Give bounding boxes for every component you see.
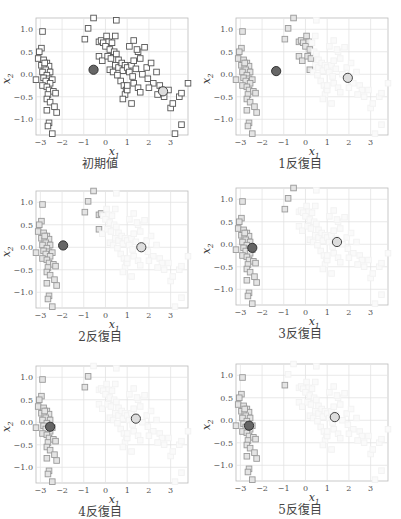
data-point: [140, 71, 146, 77]
panel-iter-2: −3−2−101231.00.50.0−0.5−1.0x1x2 2反復目: [0, 177, 200, 349]
data-point: [36, 222, 42, 228]
data-point: [134, 220, 140, 226]
y-tick-label: 1.0: [20, 373, 33, 382]
data-point: [109, 213, 115, 219]
x-tick-label: 0: [103, 138, 108, 147]
data-point: [354, 239, 360, 245]
data-point: [42, 408, 48, 414]
x-tick-label: −2: [56, 138, 68, 147]
data-point: [114, 51, 120, 57]
data-point: [314, 363, 320, 369]
data-point: [334, 217, 340, 223]
data-point: [361, 94, 367, 100]
data-point: [154, 242, 160, 248]
y-axis-label: x2: [0, 421, 15, 432]
data-point: [44, 107, 50, 113]
data-point: [131, 58, 137, 64]
x-tick-label: 0: [303, 484, 308, 493]
data-point: [154, 417, 160, 423]
data-point: [109, 388, 115, 394]
data-point: [115, 245, 121, 251]
data-point: [253, 90, 259, 96]
plot-frame: [36, 366, 188, 483]
data-point: [52, 104, 58, 110]
y-tick-label: −0.5: [14, 441, 33, 450]
data-point: [253, 260, 259, 266]
data-point: [179, 122, 185, 128]
data-point: [233, 423, 239, 429]
data-point: [320, 442, 326, 448]
x-tick-label: 1: [325, 138, 330, 147]
data-point: [85, 374, 91, 380]
data-point: [170, 449, 176, 455]
data-point: [131, 386, 137, 392]
x-tick-label: 3: [368, 138, 373, 147]
data-point: [99, 58, 105, 64]
centroid-light: [332, 237, 341, 246]
data-point: [385, 426, 391, 432]
y-tick-label: −0.5: [14, 93, 33, 102]
x-tick-label: 3: [368, 484, 373, 493]
data-point: [145, 76, 151, 82]
x-tick-label: −2: [256, 484, 268, 493]
data-point: [137, 89, 143, 95]
data-point: [127, 217, 133, 223]
data-point: [370, 101, 376, 107]
data-point: [129, 449, 135, 455]
y-tick-label: 0.5: [20, 48, 33, 57]
caption: 1反復目: [200, 154, 400, 171]
data-point: [82, 384, 88, 390]
y-tick-label: −1.0: [214, 115, 233, 124]
data-point: [146, 258, 152, 264]
data-point: [131, 231, 137, 237]
data-point: [127, 392, 133, 398]
x-tick-label: −3: [234, 138, 246, 147]
data-point: [252, 104, 258, 110]
data-point: [337, 56, 343, 62]
data-point: [348, 60, 354, 66]
data-point: [91, 363, 97, 369]
data-point: [124, 83, 130, 89]
data-point: [254, 280, 260, 286]
data-point: [324, 429, 330, 435]
y-tick-label: 1.0: [220, 195, 233, 204]
y-tick-label: 0.5: [220, 218, 233, 227]
x-tick-label: 3: [168, 311, 173, 320]
data-point: [114, 224, 120, 230]
data-point: [145, 424, 151, 430]
centroid-light: [131, 414, 140, 423]
data-point: [124, 256, 130, 262]
y-tick-label: 1.0: [220, 25, 233, 34]
data-point: [337, 435, 343, 441]
x-tick-label: 0: [303, 308, 308, 317]
data-point: [85, 26, 91, 32]
data-point: [285, 196, 291, 202]
data-point: [185, 428, 191, 434]
data-point: [242, 60, 248, 66]
data-point: [49, 479, 55, 485]
scatter-plot: −3−2−101231.00.50.0−0.5−1.0x1x2: [200, 4, 400, 154]
scatter-plot: −3−2−101231.00.50.0−0.5−1.0x1x2: [0, 177, 200, 327]
data-point: [54, 283, 60, 289]
data-point: [155, 440, 161, 446]
data-point: [235, 226, 241, 232]
data-point: [291, 15, 297, 21]
data-point: [314, 221, 320, 227]
data-point: [334, 393, 340, 399]
data-point: [235, 402, 241, 408]
data-point: [104, 33, 110, 39]
y-tick-label: −1.0: [214, 285, 233, 294]
y-tick-label: 0.0: [220, 240, 233, 249]
centroid-dark: [59, 241, 68, 250]
caption: 2反復目: [0, 327, 200, 344]
data-point: [161, 267, 167, 273]
data-point: [54, 458, 60, 464]
data-point: [142, 392, 148, 398]
data-point: [345, 422, 351, 428]
y-axis-label: x2: [200, 419, 215, 430]
data-point: [309, 386, 315, 392]
panel-iter-4: −3−2−101231.00.50.0−0.5−1.0x1x2 4反復目: [0, 352, 200, 519]
x-tick-label: −1: [78, 486, 90, 495]
data-point: [312, 203, 318, 209]
x-tick-label: −1: [278, 138, 290, 147]
